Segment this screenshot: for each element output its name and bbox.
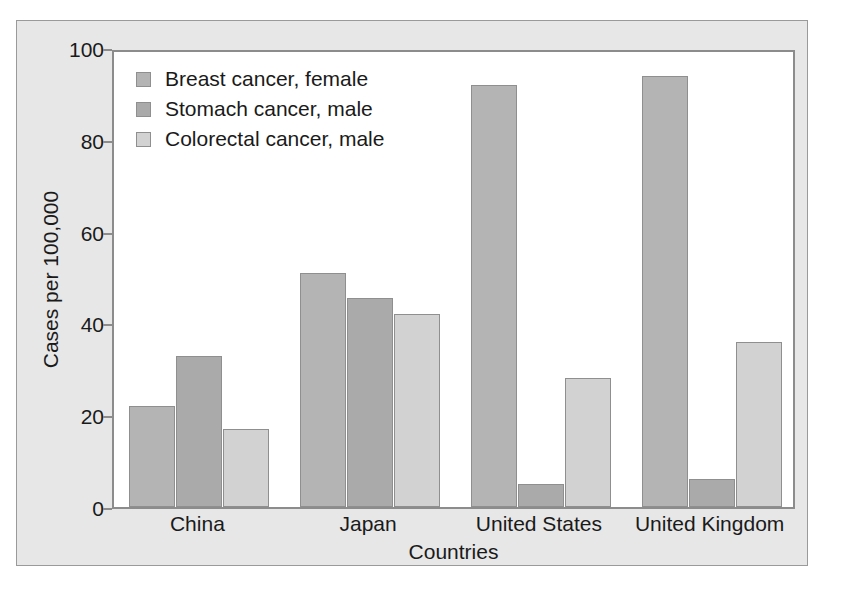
y-axis-tick-label: 20 (81, 405, 104, 429)
y-axis-tick-mark (103, 324, 112, 326)
chart-figure: Cases per 100,000 020406080100 Breast ca… (0, 0, 843, 591)
y-axis-tick-mark (103, 416, 112, 418)
y-axis-tick-mark (103, 508, 112, 510)
x-axis-tick-labels: ChinaJapanUnited StatesUnited Kingdom (112, 512, 795, 542)
legend-item: Colorectal cancer, male (136, 124, 384, 154)
y-axis-tick-label: 100 (69, 38, 104, 62)
y-axis-tick-label: 40 (81, 313, 104, 337)
legend-item-label: Breast cancer, female (165, 67, 368, 91)
bar-group (626, 52, 797, 507)
x-axis-tick-label: Japan (340, 512, 397, 536)
legend-swatch-icon (136, 102, 151, 117)
x-axis-tick-label: China (170, 512, 225, 536)
legend-item: Breast cancer, female (136, 64, 384, 94)
bar (642, 76, 688, 507)
y-axis-tick-label: 80 (81, 130, 104, 154)
bar (736, 342, 782, 507)
y-axis-tick-labels: 020406080100 (40, 50, 104, 509)
bar (689, 479, 735, 507)
bar (129, 406, 175, 507)
y-axis-tick-mark (103, 49, 112, 51)
bar (300, 273, 346, 507)
plot-area: Breast cancer, femaleStomach cancer, mal… (112, 50, 795, 509)
y-axis-tick-label: 60 (81, 222, 104, 246)
y-axis-tick-mark (103, 141, 112, 143)
x-axis-tick-label: United Kingdom (635, 512, 784, 536)
bar (223, 429, 269, 507)
x-axis-title: Countries (112, 540, 795, 564)
bar (176, 356, 222, 507)
y-axis-tick-mark (103, 233, 112, 235)
legend-item-label: Stomach cancer, male (165, 97, 373, 121)
legend-swatch-icon (136, 132, 151, 147)
bar (394, 314, 440, 507)
chart-legend: Breast cancer, femaleStomach cancer, mal… (136, 64, 384, 154)
bar (565, 378, 611, 507)
legend-item-label: Colorectal cancer, male (165, 127, 384, 151)
x-axis-tick-label: United States (476, 512, 602, 536)
bar (518, 484, 564, 507)
bar-group (456, 52, 627, 507)
bar (471, 85, 517, 507)
bar (347, 298, 393, 507)
legend-item: Stomach cancer, male (136, 94, 384, 124)
legend-swatch-icon (136, 72, 151, 87)
